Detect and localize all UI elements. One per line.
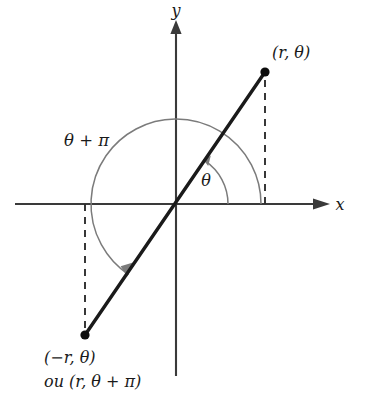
x-axis-label: x [335, 195, 344, 214]
polar-coordinates-figure: x y (r, θ) (−r, θ) ou (r, θ + π) θ + π θ [0, 0, 365, 401]
y-axis-label: y [170, 1, 181, 20]
arc-label-theta: θ [201, 171, 211, 190]
point-label-lower-line1: (−r, θ) [44, 348, 96, 367]
point-label-upper: (r, θ) [272, 43, 310, 62]
polar-coordinates-diagram: x y (r, θ) (−r, θ) ou (r, θ + π) θ + π θ [0, 0, 365, 401]
arc-label-theta-plus-pi: θ + π [64, 131, 110, 150]
point-dot-upper [260, 67, 269, 76]
point-label-lower-line2: ou (r, θ + π) [44, 372, 141, 391]
point-dot-lower [80, 330, 89, 339]
figure-background [0, 0, 365, 401]
